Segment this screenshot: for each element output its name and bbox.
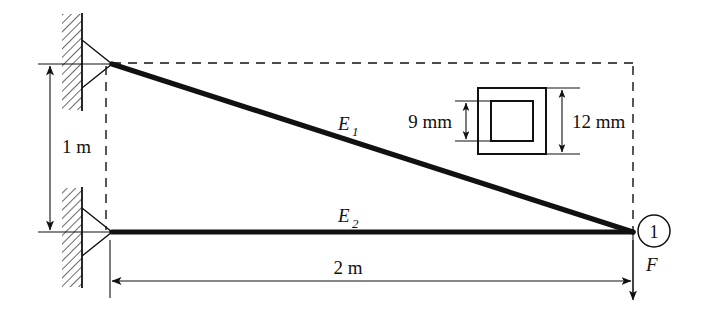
member-label-e2-subscript: 2 (352, 216, 359, 231)
member-label-e2: E 2 (337, 205, 359, 231)
figure-canvas: E 1 E 2 1 F 1 m 2 m 9 mm (0, 0, 713, 321)
member-label-e2-text: E (337, 205, 350, 226)
force-label: F (645, 254, 658, 275)
span-dimension-label: 2 m (333, 257, 362, 278)
member-label-e1-subscript: 1 (352, 124, 359, 139)
height-dimension-label: 1 m (62, 136, 91, 157)
inner-dimension-label: 9 mm (408, 111, 452, 132)
truss-member-e1 (112, 64, 633, 232)
upper-wall-hatching (62, 14, 82, 110)
cross-section-detail: 9 mm 12 mm (408, 88, 625, 154)
member-label-e1-text: E (337, 113, 350, 134)
cross-section-inner-square (491, 101, 533, 141)
node-1-label: 1 (650, 222, 659, 242)
outer-dimension-label: 12 mm (572, 111, 626, 132)
lower-wall-hatching (62, 188, 82, 287)
truss-figure: E 1 E 2 1 F 1 m 2 m 9 mm (0, 0, 713, 321)
